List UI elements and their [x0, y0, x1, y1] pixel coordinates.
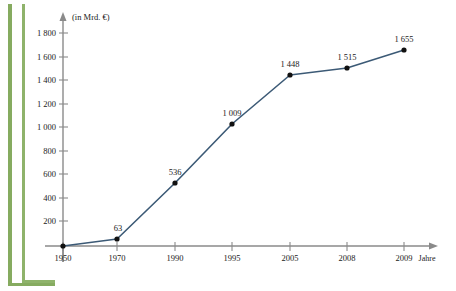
data-point-label: 1 655	[394, 34, 413, 44]
y-tick-label: 600	[43, 169, 56, 179]
data-point-label: 1 448	[280, 59, 299, 69]
y-tick-label: 400	[43, 193, 56, 203]
x-tick-label: 1970	[109, 253, 126, 263]
y-tick-label: 1 600	[37, 52, 56, 62]
data-point	[287, 72, 292, 77]
data-point-label: 1 009	[222, 108, 241, 118]
x-tick-label: 1990	[167, 253, 184, 263]
line-chart: 1 800 1 600 1 400 1 200 1 000 800 600 40…	[0, 0, 456, 291]
y-axis-title: (in Mrd. €)	[72, 12, 110, 22]
x-tick-label: 1950	[55, 253, 72, 263]
data-point	[229, 121, 234, 126]
data-point	[344, 65, 349, 70]
data-point-label: 63	[114, 223, 123, 233]
data-point	[114, 236, 119, 241]
y-tick-label: 1 800	[37, 28, 56, 38]
x-tick-label: 1995	[224, 253, 241, 263]
y-tick-label: 200	[43, 216, 56, 226]
x-tick-label: 2009	[396, 253, 413, 263]
data-series-line	[63, 50, 404, 246]
y-tick-label: 1 000	[37, 122, 56, 132]
y-axis	[60, 12, 67, 262]
y-axis-tick-labels: 1 800 1 600 1 400 1 200 1 000 800 600 40…	[37, 28, 56, 226]
data-point-labels: 63 536 1 009 1 448 1 515 1 655	[114, 34, 414, 233]
y-tick-label: 800	[43, 146, 56, 156]
x-axis-arrow-icon	[429, 243, 438, 250]
data-point-label: 536	[169, 167, 182, 177]
x-axis-tick-labels: 1950 1970 1990 1995 2005 2008 2009	[55, 253, 413, 263]
x-axis-title: Jahre	[419, 254, 436, 263]
data-point	[401, 47, 406, 52]
y-axis-arrow-icon	[60, 12, 67, 21]
data-points	[60, 47, 406, 248]
x-tick-label: 2008	[339, 253, 356, 263]
y-tick-label: 1 200	[37, 99, 56, 109]
x-axis	[45, 243, 438, 250]
data-point	[60, 243, 65, 248]
data-point-label: 1 515	[337, 52, 356, 62]
chart-canvas: 1 800 1 600 1 400 1 200 1 000 800 600 40…	[0, 0, 456, 291]
data-point	[172, 180, 177, 185]
y-tick-label: 1 400	[37, 75, 56, 85]
x-tick-label: 2005	[282, 253, 299, 263]
